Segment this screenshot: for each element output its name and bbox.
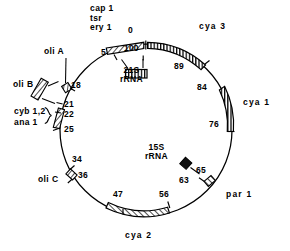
label-63: 63 [179, 176, 189, 185]
label-76: 76 [209, 120, 219, 129]
label-5: 5 [101, 48, 106, 57]
tick-marks [53, 41, 235, 215]
label-22: 22 [64, 110, 74, 119]
label-84: 84 [197, 83, 207, 92]
label-65: 65 [196, 166, 206, 175]
label-cya3: cya 3 [199, 22, 226, 31]
segment-cya1 [219, 86, 233, 131]
tick-25 [53, 128, 59, 130]
leader-oliA [66, 58, 67, 83]
label-par1: par 1 [226, 190, 252, 199]
label-25: 25 [64, 125, 74, 134]
label-100: 100 [124, 44, 139, 53]
label-oliC: oli C [38, 175, 58, 184]
label-89: 89 [174, 62, 184, 71]
label-21: 21 [64, 100, 74, 109]
label-cya2: cya 2 [125, 231, 152, 240]
genome-map-svg [0, 0, 290, 251]
label-cya1: cya 1 [243, 98, 270, 107]
segment-cyb-ana [53, 108, 64, 129]
tick-36 [68, 179, 73, 183]
label-21S-rrna: rRNA [120, 75, 143, 84]
label-group-top-genes: cap 1 tsr ery 1 [90, 4, 114, 33]
label-rrna-21S: 21S rRNA [120, 66, 143, 84]
label-oliB: oli B [13, 80, 33, 89]
tick-63 [199, 178, 204, 182]
tick-89 [205, 61, 210, 65]
label-oliA: oli A [44, 47, 64, 56]
brace-cyb-ana [45, 108, 52, 124]
segment-rrna-15S [180, 157, 192, 169]
leader-oliB2 [42, 99, 55, 104]
label-18: 18 [71, 81, 81, 90]
label-cyb12: cyb 1,2 [14, 107, 46, 116]
tick-34 [70, 166, 75, 170]
label-47: 47 [113, 190, 123, 199]
label-36: 36 [78, 171, 88, 180]
tick-21 [57, 103, 63, 105]
segment-par1 [204, 176, 215, 187]
leader-oliB [48, 82, 59, 87]
label-34: 34 [72, 155, 82, 164]
label-ana1: ana 1 [14, 118, 38, 127]
label-56: 56 [159, 190, 169, 199]
label-15S-rrna: rRNA [145, 152, 168, 161]
label-rrna-15S: 15S rRNA [145, 143, 168, 161]
label-0: 0 [128, 26, 133, 35]
segment-oliB [31, 78, 48, 100]
label-ery1: ery 1 [90, 23, 114, 33]
tick-5 [114, 55, 117, 61]
circular-genome-map-figure: cap 1 tsr ery 1 0 100 5 cya 3 89 84 cya … [0, 0, 290, 251]
segment-cya2 [106, 203, 170, 217]
